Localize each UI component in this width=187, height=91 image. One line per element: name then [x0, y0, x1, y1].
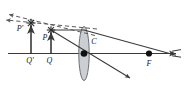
- optical-centre-dot-icon: [81, 50, 88, 57]
- label-Q: Q: [47, 56, 53, 65]
- label-P-prime: P': [16, 24, 24, 33]
- principal-axis-arrow-tail: [172, 50, 181, 52]
- label-C: C: [91, 37, 97, 46]
- label-P: P: [42, 33, 48, 42]
- diagram-canvas: P' P Q' Q C F: [0, 0, 187, 91]
- principal-axis-arrow-tail2: [172, 56, 181, 57]
- ray-diagram-figure: P' P Q' Q C F: [0, 0, 187, 91]
- label-F: F: [146, 59, 152, 68]
- label-Q-prime: Q': [26, 56, 34, 65]
- star-marker-P-prime-icon: [27, 19, 36, 27]
- star-marker-P-icon: [47, 26, 55, 34]
- focal-point-dot-icon: [146, 50, 152, 56]
- refracted-ray-to-focus: [84, 30, 176, 55]
